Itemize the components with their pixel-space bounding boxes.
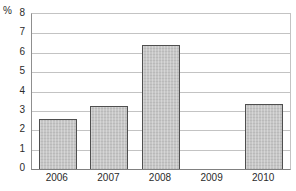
x-axis: 20062007200820092010 xyxy=(31,171,289,187)
y-tick-label: 7 xyxy=(19,27,25,37)
x-tick-label: 2010 xyxy=(237,171,289,187)
bar-2006 xyxy=(39,119,77,169)
x-tick-label: 2009 xyxy=(186,171,238,187)
bar-2010 xyxy=(245,104,283,169)
y-tick-label: 1 xyxy=(19,144,25,154)
bar-chart: % 012345678 20062007200820092010 xyxy=(0,0,296,191)
plot-area xyxy=(31,13,291,170)
bar-slot xyxy=(238,14,290,169)
bar-slot xyxy=(187,14,239,169)
y-tick-label: 5 xyxy=(19,66,25,76)
x-tick-label: 2007 xyxy=(83,171,135,187)
bar-2008 xyxy=(142,45,180,169)
bar-slot xyxy=(135,14,187,169)
y-tick-label: 3 xyxy=(19,105,25,115)
x-tick-label: 2008 xyxy=(134,171,186,187)
y-tick-label: 6 xyxy=(19,47,25,57)
y-tick-label: 4 xyxy=(19,86,25,96)
y-tick-label: 2 xyxy=(19,124,25,134)
x-tick-label: 2006 xyxy=(31,171,83,187)
bars-container xyxy=(32,14,290,169)
bar-slot xyxy=(32,14,84,169)
y-tick-label: 8 xyxy=(19,8,25,18)
bar-slot xyxy=(84,14,136,169)
y-tick-label: 0 xyxy=(19,163,25,173)
y-axis: 012345678 xyxy=(0,13,28,168)
bar-2007 xyxy=(90,106,128,169)
